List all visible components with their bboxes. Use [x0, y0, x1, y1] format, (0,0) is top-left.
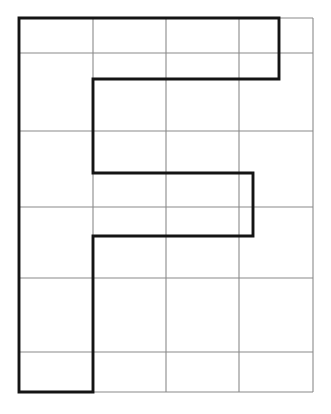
figure-canvas: Grid with bold polygon outline: [0, 0, 331, 414]
grid-figure-svg: [0, 0, 331, 414]
